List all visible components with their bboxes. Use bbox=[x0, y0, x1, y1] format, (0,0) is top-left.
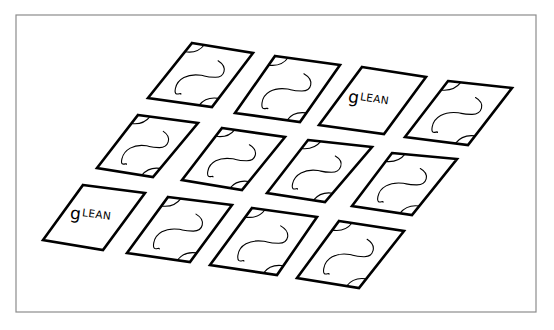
diagram-canvas: gLEANgLEAN bbox=[0, 0, 554, 330]
